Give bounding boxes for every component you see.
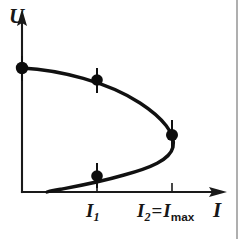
- data-point-4: [91, 170, 103, 182]
- data-point-1: [16, 62, 28, 74]
- tick-label-Imax-base: I: [163, 200, 170, 221]
- tick-label-I1-subscript: 1: [93, 210, 99, 224]
- x-axis-label: I: [213, 200, 221, 221]
- x-tick-label-I1: I1: [86, 201, 99, 223]
- data-point-3: [166, 129, 178, 141]
- y-axis-label: U: [9, 6, 24, 27]
- x-tick-label-I2: I2=Imax: [137, 201, 194, 223]
- data-point-2: [91, 74, 103, 86]
- tick-label-I2-equals: =: [150, 200, 163, 221]
- plot-canvas: [0, 0, 244, 239]
- figure-container: U I I1 I2=Imax: [0, 0, 244, 239]
- tick-label-Imax-subscript: max: [171, 210, 195, 223]
